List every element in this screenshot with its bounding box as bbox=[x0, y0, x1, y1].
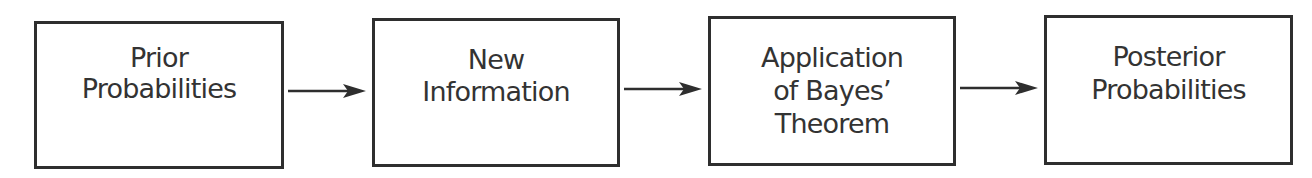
arrow-icon bbox=[288, 84, 366, 98]
arrow-icon bbox=[960, 81, 1038, 95]
connector-arrows bbox=[0, 0, 1312, 178]
arrow-icon bbox=[624, 82, 702, 96]
